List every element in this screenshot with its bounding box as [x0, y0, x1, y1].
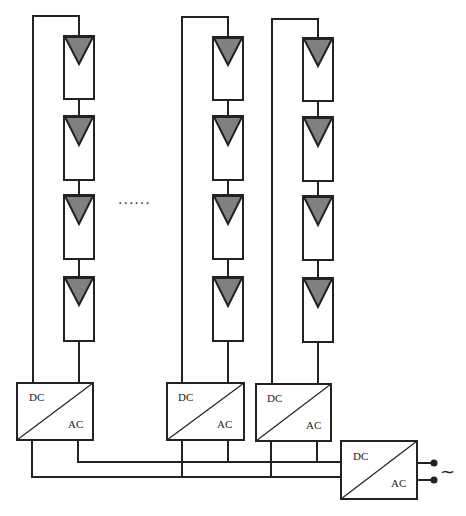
pv-panel: [213, 277, 243, 341]
pv-system-diagram: ......: [0, 0, 466, 516]
dc-label: DC: [178, 391, 193, 403]
ac-label: AC: [217, 418, 232, 430]
pv-panel: [213, 195, 243, 259]
pv-panel: [64, 277, 94, 341]
pv-panel: [64, 36, 94, 99]
pv-panel: [303, 278, 333, 342]
ac-symbol-icon: ~: [440, 461, 455, 482]
dc-label: DC: [267, 392, 282, 404]
pv-string-3: [272, 19, 333, 385]
string-inverter-1: DC AC: [17, 383, 93, 440]
ac-bus: [32, 440, 341, 477]
pv-panel: [303, 38, 333, 101]
pv-panel: [64, 195, 94, 259]
pv-string-1: [33, 16, 94, 383]
string-inverter-2: DC AC: [167, 383, 244, 440]
dc-label: DC: [29, 391, 44, 403]
ac-label: AC: [391, 477, 406, 489]
ac-output-terminal: [431, 477, 438, 484]
string-inverter-3: DC AC: [256, 384, 331, 441]
pv-panel: [213, 116, 243, 180]
pv-panel: [303, 196, 333, 260]
central-inverter: DC AC ~: [341, 441, 455, 499]
dc-label: DC: [353, 450, 368, 462]
ac-label: AC: [306, 419, 321, 431]
more-strings-ellipsis: ......: [118, 191, 151, 207]
ac-label: AC: [68, 418, 83, 430]
ac-output-terminal: [431, 460, 438, 467]
pv-panel: [64, 116, 94, 180]
pv-panel: [213, 37, 243, 100]
pv-panel: [303, 117, 333, 181]
ac-bus-line-upper: [78, 440, 341, 462]
pv-string-2: [182, 17, 243, 383]
